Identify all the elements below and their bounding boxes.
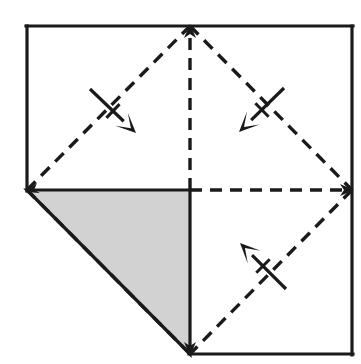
fold-diagram-figure (0, 0, 361, 364)
fold-diagram-canvas (0, 0, 361, 364)
